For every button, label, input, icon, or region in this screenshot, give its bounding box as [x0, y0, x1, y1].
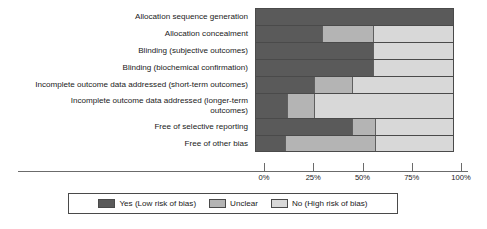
- bar-row-label-line: Blinding (subjective outcomes): [138, 46, 248, 56]
- x-axis: 0%25%50%75%100%: [0, 161, 487, 185]
- legend-label: No (High risk of bias): [292, 199, 368, 209]
- legend-label: Yes (Low risk of bias): [119, 199, 196, 209]
- x-axis-tick: [363, 163, 364, 171]
- legend-swatch-unclear: [209, 199, 226, 208]
- chart-legend: Yes (Low risk of bias)UnclearNo (High ri…: [68, 193, 398, 214]
- bar-row-label-line: Incomplete outcome data addressed (longe…: [71, 96, 248, 106]
- x-axis-tick-label: 25%: [306, 173, 321, 182]
- bar-rows: Allocation sequence generationAllocation…: [0, 8, 487, 152]
- bar-row-label-line: Allocation concealment: [165, 29, 248, 39]
- bar-row: Incomplete outcome data addressed (longe…: [0, 93, 487, 118]
- stacked-bar: [255, 93, 454, 118]
- bar-row-label-line: outcomes): [210, 106, 248, 116]
- bar-segment-no: [375, 119, 453, 135]
- bar-row-label: Blinding (biochemical confirmation): [0, 59, 255, 76]
- bar-row-label: Blinding (subjective outcomes): [0, 42, 255, 59]
- stacked-bar: [255, 25, 454, 42]
- legend-item: Unclear: [209, 199, 258, 209]
- legend-item: No (High risk of bias): [271, 199, 368, 209]
- bar-segment-no: [373, 60, 453, 76]
- bar-row-label: Free of selective reporting: [0, 118, 255, 135]
- bar-row: Blinding (biochemical confirmation): [0, 59, 487, 76]
- stacked-bar: [255, 59, 454, 76]
- stacked-bar: [255, 42, 454, 59]
- bar-segment-unclear: [352, 119, 377, 135]
- bar-segment-yes: [256, 43, 374, 59]
- x-axis-tick: [264, 163, 265, 171]
- bar-row-label-line: Blinding (biochemical confirmation): [122, 63, 248, 73]
- bar-segment-no: [375, 136, 453, 151]
- bar-row: Free of other bias: [0, 135, 487, 152]
- bar-row: Allocation sequence generation: [0, 8, 487, 25]
- x-axis-tick: [461, 163, 462, 171]
- risk-of-bias-stacked-bar-chart: Allocation sequence generationAllocation…: [0, 0, 487, 229]
- bar-segment-yes: [256, 60, 374, 76]
- bar-row-label: Allocation concealment: [0, 25, 255, 42]
- bar-segment-yes: [256, 136, 286, 151]
- bar-row-label-line: Free of selective reporting: [154, 122, 248, 132]
- bar-row: Free of selective reporting: [0, 118, 487, 135]
- bar-segment-unclear: [287, 94, 316, 118]
- bar-segment-unclear: [285, 136, 377, 151]
- bar-row-label-line: Free of other bias: [185, 139, 248, 149]
- legend-item: Yes (Low risk of bias): [98, 199, 196, 209]
- bar-row: Allocation concealment: [0, 25, 487, 42]
- bar-segment-no: [352, 77, 453, 93]
- x-axis-line: [18, 171, 468, 172]
- bar-row: Blinding (subjective outcomes): [0, 42, 487, 59]
- bar-row: Incomplete outcome data addressed (short…: [0, 76, 487, 93]
- stacked-bar: [255, 8, 454, 25]
- bar-row-label: Incomplete outcome data addressed (short…: [0, 76, 255, 93]
- bar-row-label-line: Allocation sequence generation: [135, 12, 248, 22]
- bar-segment-no: [314, 94, 453, 118]
- stacked-bar: [255, 135, 454, 152]
- bar-segment-yes: [256, 26, 323, 42]
- bar-segment-unclear: [322, 26, 374, 42]
- bar-row-label: Allocation sequence generation: [0, 8, 255, 25]
- stacked-bar: [255, 76, 454, 93]
- bar-segment-yes: [256, 94, 288, 118]
- bar-segment-yes: [256, 119, 353, 135]
- x-axis-tick-label: 100%: [451, 173, 470, 182]
- x-axis-tick-label: 0%: [259, 173, 270, 182]
- bar-segment-no: [373, 43, 453, 59]
- x-axis-tick: [313, 163, 314, 171]
- x-axis-tick: [412, 163, 413, 171]
- bar-row-label: Free of other bias: [0, 135, 255, 152]
- x-axis-tick-label: 50%: [355, 173, 370, 182]
- legend-label: Unclear: [230, 199, 258, 209]
- bar-segment-yes: [256, 9, 453, 25]
- stacked-bar: [255, 118, 454, 135]
- bar-row-label: Incomplete outcome data addressed (longe…: [0, 93, 255, 118]
- bar-row-label-line: Incomplete outcome data addressed (short…: [35, 80, 248, 90]
- bar-segment-no: [373, 26, 453, 42]
- legend-swatch-yes: [98, 199, 115, 208]
- bar-segment-yes: [256, 77, 315, 93]
- bar-segment-unclear: [314, 77, 352, 93]
- x-axis-tick-label: 75%: [404, 173, 419, 182]
- legend-swatch-no: [271, 199, 288, 208]
- plot-area: Allocation sequence generationAllocation…: [0, 0, 487, 160]
